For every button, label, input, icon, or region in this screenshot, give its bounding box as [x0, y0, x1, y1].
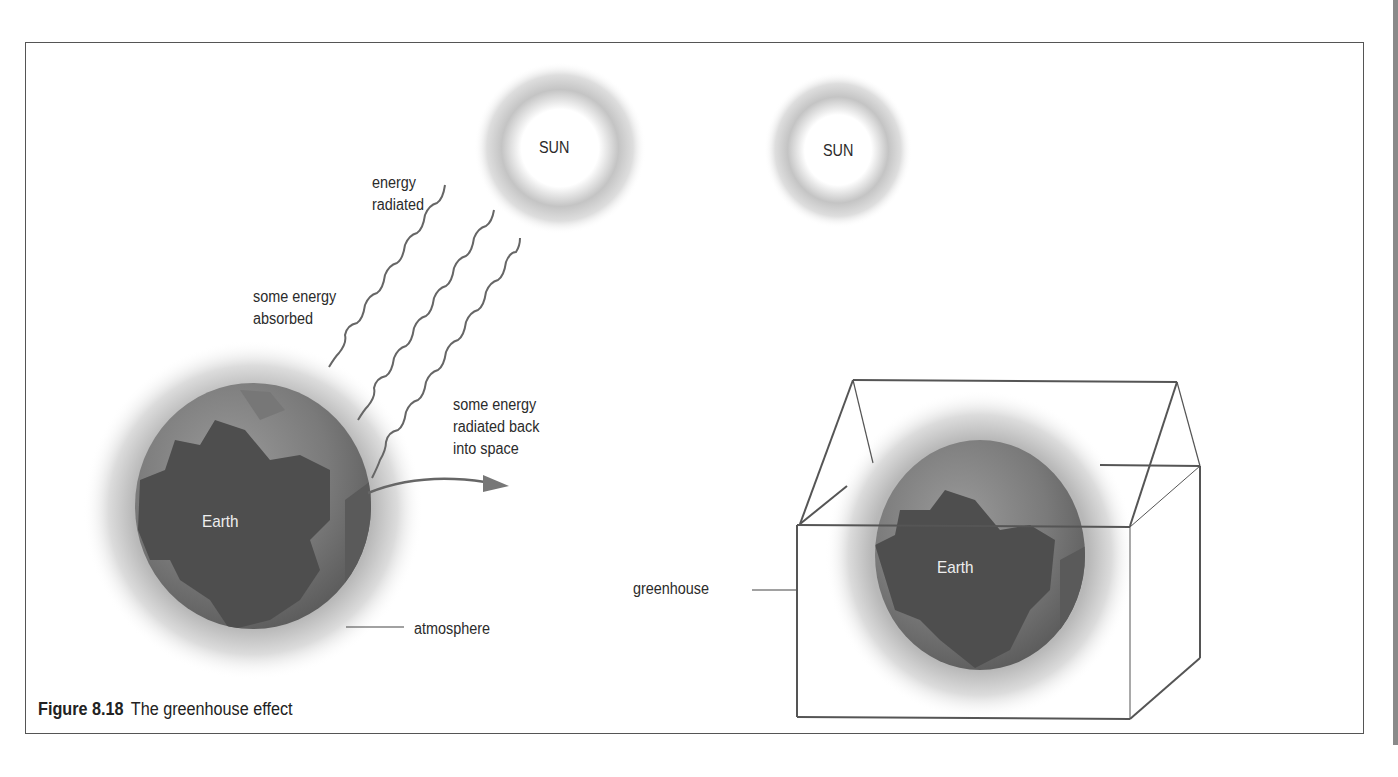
earth-icon-left [135, 383, 372, 630]
figure-caption: Figure 8.18The greenhouse effect [38, 699, 293, 720]
atmosphere-label: atmosphere [414, 618, 490, 640]
figure-number: Figure 8.18 [38, 699, 124, 719]
energy-radiated-label: energy radiated [372, 172, 424, 216]
greenhouse-diagram [0, 0, 1398, 777]
figure-title: The greenhouse effect [131, 699, 293, 719]
sun-label-left: SUN [539, 137, 569, 159]
greenhouse-label: greenhouse [633, 578, 709, 600]
earth-label-left: Earth [202, 511, 239, 533]
energy-ray-2 [358, 210, 494, 420]
earth-label-right: Earth [937, 557, 974, 579]
sun-label-right: SUN [823, 140, 853, 162]
energy-absorbed-label: some energy absorbed [253, 286, 336, 330]
energy-back-label: some energy radiated back into space [453, 394, 539, 460]
